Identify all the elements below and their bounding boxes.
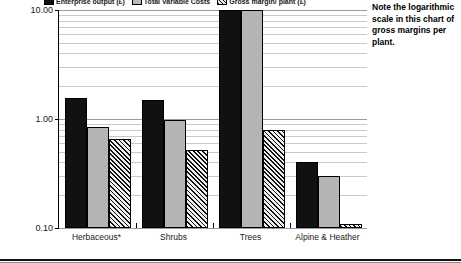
chart-note-callout: Note the logarithmic scale in this chart… [372, 2, 458, 48]
bar-group [290, 10, 367, 228]
bar-1[interactable] [318, 176, 340, 228]
bar-2[interactable] [186, 150, 208, 228]
x-axis-tick-label: Trees [212, 232, 289, 258]
bar-2[interactable] [263, 130, 285, 228]
bar-group [59, 10, 136, 228]
category-separator [290, 223, 291, 228]
x-axis-tick-label: Herbaceous* [58, 232, 135, 258]
bar-1[interactable] [87, 127, 109, 228]
bar-0[interactable] [142, 100, 164, 228]
legend-swatch-hatch-icon [217, 0, 227, 5]
chart-bar-groups [59, 10, 367, 228]
gridline-major [59, 228, 367, 229]
bar-1[interactable] [164, 120, 186, 228]
legend-label-1: Total Variable Costs [144, 0, 210, 5]
bar-2[interactable] [340, 224, 362, 229]
bar-group [213, 10, 290, 228]
legend-label-2: Gross margin/ plant (£) [229, 0, 306, 5]
chart-x-axis-labels: Herbaceous*ShrubsTreesAlpine & Heather [58, 232, 366, 258]
bar-group [136, 10, 213, 228]
bar-0[interactable] [296, 162, 318, 228]
bar-2[interactable] [109, 139, 131, 228]
category-separator [136, 223, 137, 228]
category-separator [213, 223, 214, 228]
y-axis-tick-mark [55, 228, 59, 229]
legend-swatch-dots-icon [132, 0, 142, 5]
legend-item-1: Total Variable Costs [132, 0, 210, 5]
footer-rule [0, 259, 461, 262]
bar-1[interactable] [241, 10, 263, 228]
bar-0[interactable] [219, 10, 241, 228]
x-axis-tick-label: Alpine & Heather [289, 232, 366, 258]
x-axis-tick-label: Shrubs [135, 232, 212, 258]
bar-0[interactable] [65, 98, 87, 228]
legend-label-0: Enterprise output (£) [56, 0, 125, 5]
chart-legend: Enterprise output (£) Total Variable Cos… [44, 0, 374, 6]
legend-item-2: Gross margin/ plant (£) [217, 0, 306, 5]
chart-plot-area: 0.101.0010.00 [58, 10, 367, 229]
